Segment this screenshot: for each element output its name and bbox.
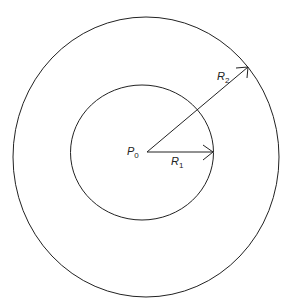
center-label-sub: 0 <box>134 151 138 160</box>
diagram-drawing <box>0 0 289 306</box>
r1-label-sub: 1 <box>179 161 183 170</box>
radius-r2-arrow <box>147 67 248 152</box>
concentric-circles-diagram: P0 R1 R2 <box>0 0 289 306</box>
r2-label-sub: 2 <box>225 76 229 85</box>
r1-label: R1 <box>171 156 183 170</box>
center-point-label: P0 <box>127 146 139 160</box>
outer-circle <box>13 17 279 297</box>
r2-label: R2 <box>217 71 229 85</box>
r1-label-main: R <box>171 155 179 167</box>
r2-label-main: R <box>217 70 225 82</box>
